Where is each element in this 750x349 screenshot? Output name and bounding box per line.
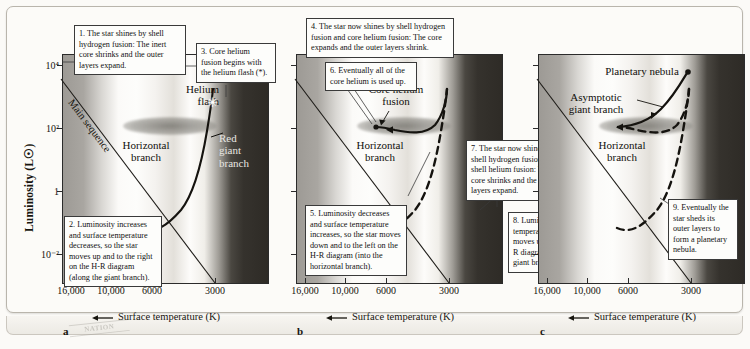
panel-b-letter: b bbox=[297, 325, 303, 337]
panel-a-ytick-label-1: 10² bbox=[46, 123, 59, 134]
helium-flash-star-icon: ✳ bbox=[207, 96, 218, 109]
panel-a-ytick-label-3: 10⁻² bbox=[41, 249, 59, 260]
panel-b-horizontal-branch-blob bbox=[357, 117, 451, 135]
page-watermark: NATION bbox=[69, 319, 131, 349]
panel-b-ytickmark-1 bbox=[291, 128, 297, 129]
panel-a-x-axis-title: Surface temperature (K) bbox=[92, 311, 220, 322]
panel-c-xtick-label-0: 16,000 bbox=[533, 285, 561, 296]
panel-b-x-axis-title: Surface temperature (K) bbox=[326, 311, 454, 322]
panel-a-x-axis-title-text: Surface temperature (K) bbox=[118, 311, 220, 322]
panel-c-ytickmark-1 bbox=[533, 128, 539, 129]
panel-b-xtickmark-2 bbox=[386, 278, 387, 283]
panel-c-xtick-label-2: 6000 bbox=[618, 285, 638, 296]
panel-b-ytickmark-3 bbox=[291, 254, 297, 255]
panel-c-xtick-label-1: 10,000 bbox=[573, 285, 601, 296]
panel-b-callout-5: 5. Luminosity decreases and surface temp… bbox=[305, 205, 407, 276]
panel-b-ytickmark-0 bbox=[291, 65, 297, 66]
hr-diagram-figure: NATION Main sequence Horizontal branch R… bbox=[0, 0, 750, 349]
panel-b-xtickmark-0 bbox=[305, 278, 306, 283]
panel-b-xtickmark-3 bbox=[449, 278, 450, 283]
panel-a-x-arrow-icon bbox=[92, 314, 114, 322]
panel-c-xtickmark-1 bbox=[587, 278, 588, 283]
panel-a-callout-2: 2. Luminosity increases and surface temp… bbox=[64, 216, 162, 287]
panel-c-horizontal-branch-blob bbox=[599, 117, 693, 135]
panel-c-xtickmark-2 bbox=[628, 278, 629, 283]
panel-c-xtickmark-0 bbox=[547, 278, 548, 283]
panel-b-xtick-label-0: 16,000 bbox=[291, 285, 319, 296]
panel-b-callout-4: 4. The star now shines by shell hydrogen… bbox=[306, 18, 454, 58]
panel-c-ytickmark-2 bbox=[533, 191, 539, 192]
panel-b-xtick-label-2: 6000 bbox=[376, 285, 396, 296]
panel-a-horizontal-branch-blob bbox=[123, 117, 217, 135]
panel-a-xtickmark-3 bbox=[215, 278, 216, 283]
panel-a-ytick-label-0: 10⁴ bbox=[46, 60, 60, 71]
panel-c-callout-9: 9. Eventually the star sheds its outer l… bbox=[668, 199, 738, 260]
panel-b-xtick-label-3: 3000 bbox=[439, 285, 459, 296]
panel-b-xtickmark-1 bbox=[345, 278, 346, 283]
panel-a-callout-3: 3. Core helium fusion begins with the he… bbox=[196, 43, 276, 83]
panel-b-x-axis-title-text: Surface temperature (K) bbox=[352, 311, 454, 322]
panel-a-callout-1: 1. The star shines by shell hydrogen fus… bbox=[74, 25, 186, 75]
y-axis-title: Luminosity (L☉) bbox=[22, 144, 36, 232]
panel-b-callout-6: 6. Eventually all of the core helium is … bbox=[325, 62, 417, 91]
panel-b-x-arrow-icon bbox=[326, 314, 348, 322]
panel-c-ytickmark-0 bbox=[533, 65, 539, 66]
panel-c-x-axis-title-text: Surface temperature (K) bbox=[594, 311, 696, 322]
panel-b-xtick-label-1: 10,000 bbox=[331, 285, 359, 296]
panel-c-ytickmark-3 bbox=[533, 254, 539, 255]
panel-c-x-arrow-icon bbox=[568, 314, 590, 322]
panel-a-letter: a bbox=[63, 325, 69, 337]
panel-c-x-axis-title: Surface temperature (K) bbox=[568, 311, 696, 322]
panel-c-xtickmark-3 bbox=[691, 278, 692, 283]
panel-a-ytick-label-2: 1 bbox=[54, 186, 59, 197]
panel-c-xtick-label-3: 3000 bbox=[681, 285, 701, 296]
panel-a-xtick-label-3: 3000 bbox=[205, 285, 225, 296]
panel-b-ytickmark-2 bbox=[291, 191, 297, 192]
panel-c-letter: c bbox=[540, 325, 545, 337]
